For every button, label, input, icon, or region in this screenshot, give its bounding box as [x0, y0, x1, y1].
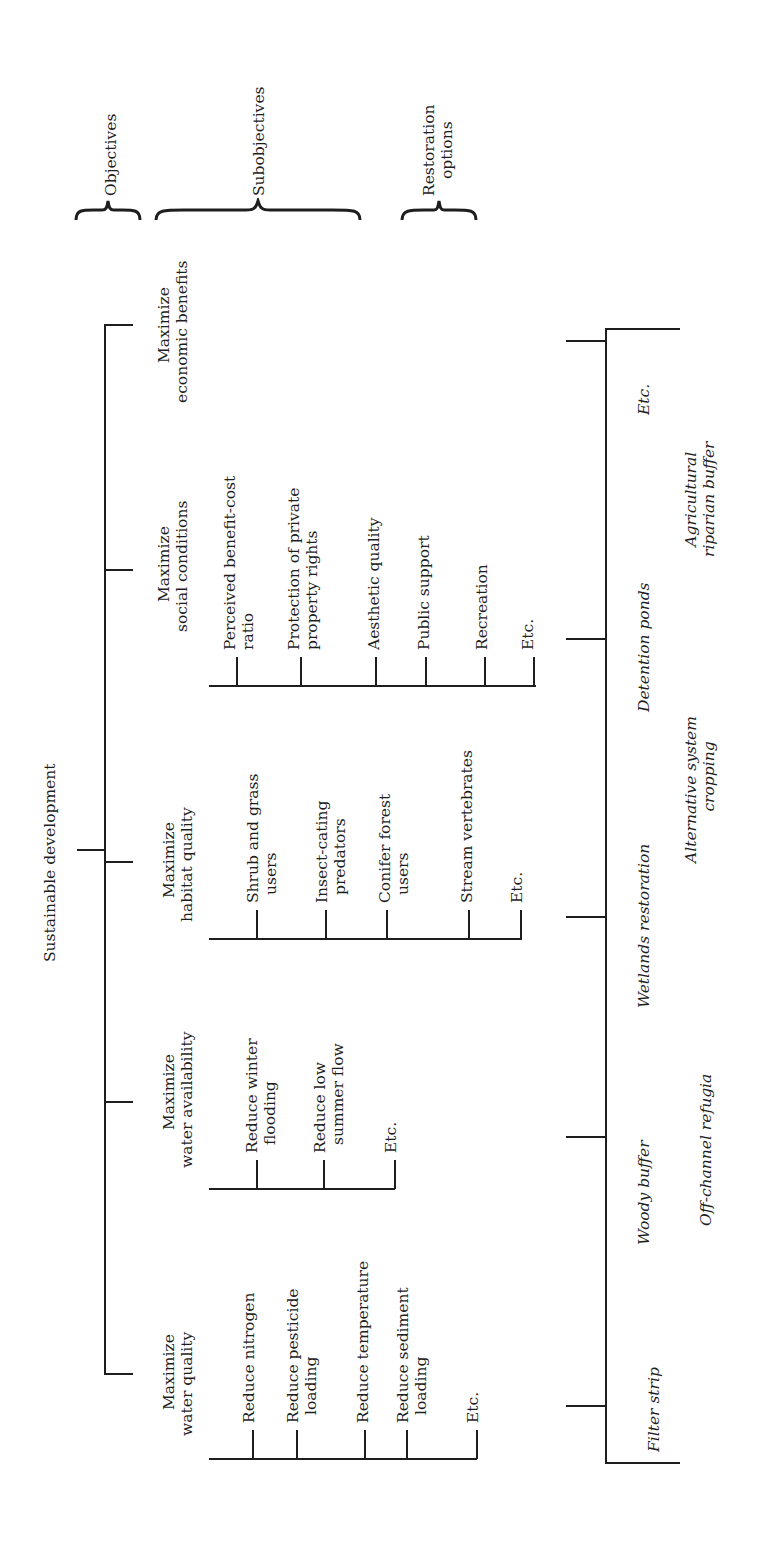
subobjective-item: Reduce pesticideloading [284, 1289, 320, 1424]
subobjective-item: Insect-catingpredators [313, 801, 349, 903]
availability-tick [104, 1101, 133, 1103]
restoration-option: Agricultural riparian buffer [682, 441, 718, 557]
habitat-sub-tick [468, 910, 470, 939]
social-sub-tick [375, 657, 377, 686]
habitat-tick [104, 861, 133, 863]
quality-sub-tick [252, 1430, 254, 1459]
subobjective-item: Etc. [508, 872, 526, 903]
quality-sub-tick [406, 1430, 408, 1459]
subobjective-item: Reduce lowsummer flow [311, 1043, 347, 1153]
restoration-option: Etc. [635, 384, 653, 415]
availability-sub-tick [323, 1160, 325, 1189]
quality-sub-bracket [209, 1458, 477, 1460]
objectives-header: Objectives [102, 114, 120, 196]
restoration-options-header: Restoration options [420, 104, 456, 196]
restoration-tick [566, 340, 606, 342]
social-tick [104, 569, 133, 571]
restoration-tick [566, 1136, 606, 1138]
subobjective-item: Aesthetic quality [365, 517, 383, 650]
root-tick [77, 849, 105, 851]
restoration-top-arm [605, 328, 680, 330]
objective-availability: Maximize water availability [160, 1032, 196, 1168]
subobjective-item: Reduce winterflooding [243, 1038, 279, 1153]
availability-sub-tick [256, 1160, 258, 1189]
social-sub-tick [484, 657, 486, 686]
restoration-option: Alternative system cropping [682, 716, 718, 863]
habitat-sub-tick [325, 910, 327, 939]
objective-habitat: Maximize habitat quality [160, 807, 196, 922]
habitat-sub-tick [386, 910, 388, 939]
objective-social: Maximize social conditions [155, 501, 191, 632]
subobjectives-brace [154, 198, 364, 224]
quality-sub-tick [296, 1430, 298, 1459]
subobjective-item: Etc. [382, 1122, 400, 1153]
subobjective-item: Public support [415, 535, 433, 650]
social-sub-tick [533, 657, 535, 686]
objective-quality: Maximize water quality [160, 1332, 196, 1436]
social-sub-tick [425, 657, 427, 686]
subobjective-item: Etc. [464, 1392, 482, 1423]
quality-tick [104, 1373, 133, 1375]
subobjective-item: Reduce sedimentloading [394, 1287, 430, 1423]
subobjective-item: Reduce temperature [354, 1261, 372, 1423]
subobjective-item: Protection of privateproperty rights [285, 488, 321, 650]
subobjective-item: Stream vertebrates [458, 750, 476, 903]
subobjective-item: Perceived benefit-costratio [221, 476, 257, 650]
restoration-tick [566, 916, 606, 918]
subobjectives-header: Subobjectives [250, 86, 268, 196]
habitat-sub-tick [520, 910, 522, 939]
objective-economic: Maximize economic benefits [155, 260, 191, 403]
social-sub-bracket [209, 685, 536, 687]
restoration-option: Off-channel refugia [697, 1074, 715, 1226]
subobjective-item: Shrub and grassusers [244, 774, 280, 903]
objectives-brace [74, 198, 142, 224]
subobjective-item: Etc. [519, 619, 537, 650]
availability-sub-bracket [209, 1188, 395, 1190]
social-sub-tick [300, 657, 302, 686]
quality-sub-tick [364, 1430, 366, 1459]
restoration-option: Woody buffer [635, 1140, 653, 1245]
restoration-tick [566, 1405, 606, 1407]
restoration-tick [566, 638, 606, 640]
subobjective-item: Conifer forestusers [376, 794, 412, 903]
habitat-sub-tick [256, 910, 258, 939]
economic-tick [104, 324, 133, 326]
availability-sub-tick [394, 1160, 396, 1189]
restoration-option: Detention ponds [635, 582, 653, 712]
root-label: Sustainable development [41, 763, 59, 962]
subobjective-item: Reduce nitrogen [240, 1292, 258, 1423]
restoration-options-brace [400, 198, 480, 224]
restoration-option: Wetlands restoration [635, 844, 653, 1008]
subobjective-item: Recreation [473, 564, 491, 650]
restoration-trunk [605, 328, 607, 1464]
restoration-bottom-arm [605, 1462, 680, 1464]
quality-sub-tick [476, 1430, 478, 1459]
social-sub-tick [236, 657, 238, 686]
restoration-option: Filter strip [645, 1367, 663, 1452]
